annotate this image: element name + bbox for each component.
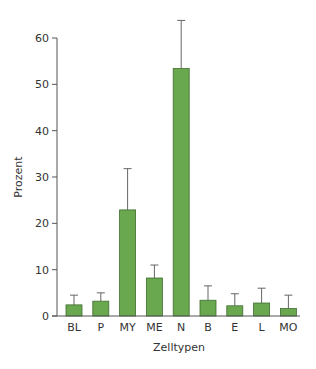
bar-chart: 0102030405060 BLPMYMENBELMO Prozent Zell…	[0, 0, 316, 369]
bar-e	[227, 294, 243, 316]
y-tick-label: 20	[35, 217, 49, 230]
y-tick-label: 60	[35, 32, 49, 45]
y-tick-label: 0	[42, 310, 49, 323]
y-tick-label: 50	[35, 78, 49, 91]
x-axis: BLPMYMENBELMO	[52, 316, 300, 334]
x-tick-label: E	[231, 321, 238, 334]
x-tick-label: L	[259, 321, 266, 334]
bar-l	[254, 288, 270, 316]
bar-n	[173, 20, 189, 316]
y-tick-label: 30	[35, 171, 49, 184]
x-axis-title: Zelltypen	[153, 341, 205, 354]
bar-p	[93, 293, 109, 316]
y-axis: 0102030405060	[35, 32, 57, 323]
y-tick-label: 10	[35, 264, 49, 277]
x-tick-label: ME	[146, 321, 162, 334]
x-tick-label: P	[97, 321, 104, 334]
y-axis-title: Prozent	[12, 156, 25, 198]
bar-bl	[66, 295, 82, 316]
x-tick-label: B	[204, 321, 212, 334]
bar-me	[146, 265, 162, 316]
x-tick-label: N	[177, 321, 185, 334]
bar-b	[200, 286, 216, 316]
x-tick-label: MY	[119, 321, 135, 334]
x-tick-label: BL	[67, 321, 82, 334]
bars	[66, 20, 296, 316]
x-tick-label: MO	[279, 321, 297, 334]
bar-mo	[280, 295, 296, 316]
y-tick-label: 40	[35, 125, 49, 138]
bar-my	[120, 169, 136, 316]
